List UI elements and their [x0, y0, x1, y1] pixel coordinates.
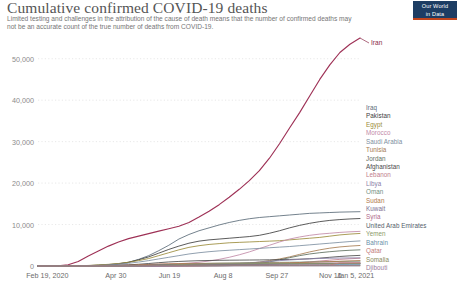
series-callout-iran: Iran — [371, 39, 382, 46]
legend-item-jordan[interactable]: Jordan — [366, 155, 458, 163]
y-axis-tick-label: 20,000 — [12, 179, 34, 188]
callout-connector-iran — [360, 38, 369, 43]
x-axis-tick-label: Aug 8 — [214, 271, 233, 280]
series-line-iran — [38, 38, 360, 266]
legend-item-sudan[interactable]: Sudan — [366, 197, 458, 205]
y-axis-tick-label: 10,000 — [12, 220, 34, 229]
legend-item-lebanon[interactable]: Lebanon — [366, 171, 458, 179]
legend-item-morocco[interactable]: Morocco — [366, 129, 458, 137]
legend-item-syria[interactable]: Syria — [366, 213, 458, 221]
legend-item-djibouti[interactable]: Djibouti — [366, 264, 458, 272]
line-chart-svg — [38, 38, 372, 266]
logo-line-1: Our World — [413, 3, 457, 11]
y-axis-tick-label: 50,000 — [12, 54, 34, 63]
y-axis-tick-label: 40,000 — [12, 96, 34, 105]
legend-item-oman[interactable]: Oman — [366, 188, 458, 196]
legend-item-somalia[interactable]: Somalia — [366, 256, 458, 264]
legend-item-egypt[interactable]: Egypt — [366, 121, 458, 129]
series-line-egypt — [38, 233, 360, 266]
legend-item-pakistan[interactable]: Pakistan — [366, 112, 458, 120]
axis-baseline — [360, 38, 369, 43]
logo-line-2: in Data — [413, 11, 457, 19]
series-lines — [38, 38, 360, 266]
legend-item-united-arab-emirates[interactable]: United Arab Emirates — [366, 222, 458, 230]
series-line-iraq — [38, 212, 360, 266]
legend-item-kuwait[interactable]: Kuwait — [366, 205, 458, 213]
x-axis-tick-label: Feb 19, 2020 — [26, 271, 68, 280]
legend-item-iraq[interactable]: Iraq — [366, 104, 458, 112]
legend-item-yemen[interactable]: Yemen — [366, 230, 458, 238]
y-axis-tick-label: 30,000 — [12, 137, 34, 146]
chart-header: Cumulative confirmed COVID-19 deaths Lim… — [0, 0, 459, 34]
x-axis-tick-label: Jun 19 — [159, 271, 181, 280]
legend: IraqPakistanEgyptMoroccoSaudi ArabiaTuni… — [366, 104, 458, 272]
chart-page: Cumulative confirmed COVID-19 deaths Lim… — [0, 0, 459, 285]
x-axis-tick-label: Sep 27 — [265, 271, 288, 280]
legend-item-tunisia[interactable]: Tunisia — [366, 146, 458, 154]
chart-subtitle: Limited testing and challenges in the at… — [7, 15, 357, 32]
plot-area: 010,00020,00030,00040,00050,000 Feb 19, … — [38, 38, 360, 266]
legend-item-libya[interactable]: Libya — [366, 180, 458, 188]
legend-item-qatar[interactable]: Qatar — [366, 247, 458, 255]
x-axis-tick-label: Apr 30 — [105, 271, 126, 280]
legend-item-afghanistan[interactable]: Afghanistan — [366, 163, 458, 171]
our-world-in-data-logo[interactable]: Our World in Data — [413, 1, 457, 20]
legend-item-saudi-arabia[interactable]: Saudi Arabia — [366, 138, 458, 146]
y-axis-tick-label: 0 — [30, 262, 34, 271]
series-line-tunisia — [38, 245, 360, 266]
legend-item-bahrain[interactable]: Bahrain — [366, 239, 458, 247]
x-axis-ticks: Feb 19, 2020Apr 30Jun 19Aug 8Sep 27Nov 1… — [38, 266, 360, 285]
